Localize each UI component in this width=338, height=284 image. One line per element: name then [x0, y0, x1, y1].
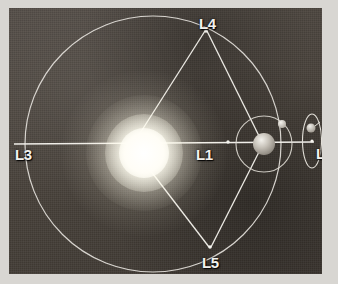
l1-point-marker	[226, 140, 229, 143]
earth-to-l5-line	[211, 146, 262, 247]
l5-point-marker	[208, 245, 212, 249]
sun-to-l4-line	[137, 31, 205, 138]
diagram-plate: L3 L1 L2 L4 L5	[9, 8, 322, 274]
earth-to-l4-line	[207, 31, 262, 142]
label-l4: L4	[199, 16, 216, 31]
sun-to-l5-line	[137, 153, 209, 247]
label-l2: L2	[316, 146, 322, 161]
earth-body	[253, 133, 275, 155]
l2-point-marker	[310, 139, 313, 142]
lagrange-point-diagram: L3 L1 L2 L4 L5	[0, 0, 338, 284]
l2-spacecraft	[307, 124, 316, 133]
label-l5: L5	[202, 255, 219, 270]
moon-body	[278, 120, 286, 128]
label-l1: L1	[196, 147, 213, 162]
diagram-canvas	[9, 8, 322, 274]
label-l3: L3	[15, 147, 32, 162]
